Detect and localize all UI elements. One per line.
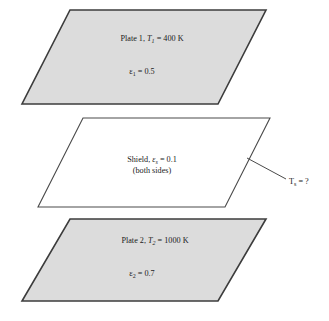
- shield-title: Shield, εs = 0.1: [127, 155, 177, 165]
- plate-2-surface: [22, 219, 266, 301]
- shield-temperature-callout: Ts = ?: [289, 177, 309, 187]
- plate-1-surface: [22, 10, 266, 104]
- plate-2-title: Plate 2, T2 = 1000 K: [121, 236, 188, 246]
- shield-leader-line: [247, 158, 286, 179]
- radiation-shield-diagram: Plate 1, T1 = 400 K ε1 = 0.5 Shield, εs …: [0, 0, 329, 321]
- shield-note: (both sides): [133, 166, 172, 175]
